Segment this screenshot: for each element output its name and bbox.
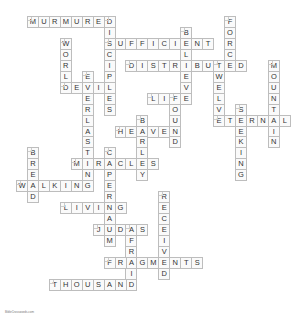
- grid-cell[interactable]: M: [147, 257, 159, 269]
- grid-cell[interactable]: N: [268, 136, 280, 148]
- grid-cell[interactable]: I: [169, 38, 181, 50]
- grid-cell[interactable]: N: [257, 115, 269, 127]
- grid-cell[interactable]: E: [71, 82, 83, 94]
- grid-cell[interactable]: I: [93, 202, 105, 214]
- grid-cell[interactable]: N: [115, 279, 127, 291]
- grid-cell[interactable]: T: [224, 115, 236, 127]
- grid-cell[interactable]: G: [82, 180, 94, 192]
- grid-cell[interactable]: D: [125, 279, 137, 291]
- grid-cell[interactable]: G: [235, 169, 247, 181]
- grid-cell[interactable]: J: [93, 224, 105, 236]
- grid-cell[interactable]: D: [169, 136, 181, 148]
- grid-cell[interactable]: S: [147, 158, 159, 170]
- grid-cell[interactable]: S: [136, 224, 148, 236]
- grid-cell[interactable]: N: [71, 180, 83, 192]
- grid-cell[interactable]: R: [169, 60, 181, 72]
- grid-cell[interactable]: D: [235, 60, 247, 72]
- grid-cell[interactable]: S: [104, 104, 116, 116]
- grid-cell[interactable]: I: [93, 82, 105, 94]
- grid-cell[interactable]: E: [125, 126, 137, 138]
- grid-cell[interactable]: S: [191, 257, 203, 269]
- grid-cell[interactable]: T: [202, 38, 214, 50]
- grid-cell[interactable]: R: [115, 257, 127, 269]
- grid-cell[interactable]: L: [279, 115, 291, 127]
- grid-cell[interactable]: M: [104, 235, 116, 247]
- footer-credit: BibleCrosswords.com: [5, 310, 34, 314]
- grid-cell[interactable]: M: [71, 158, 83, 170]
- grid-cell[interactable]: L: [125, 158, 137, 170]
- grid-cell[interactable]: Y: [136, 169, 148, 181]
- grid-cell[interactable]: E: [180, 93, 192, 105]
- grid-cell[interactable]: R: [93, 158, 105, 170]
- crossword-grid: MURMUREDFORCEISCIPLESBELIEVEUFFICINTWORL…: [0, 0, 299, 320]
- grid-cell[interactable]: W: [16, 180, 28, 192]
- grid-cell[interactable]: E: [158, 126, 170, 138]
- grid-cell[interactable]: D: [27, 191, 39, 203]
- grid-cell[interactable]: D: [158, 268, 170, 280]
- grid-cell[interactable]: G: [115, 202, 127, 214]
